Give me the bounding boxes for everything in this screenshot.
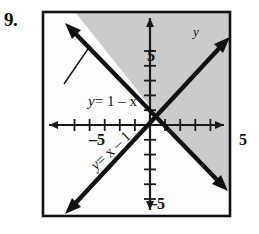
equation-1-variable: y	[88, 93, 95, 109]
coordinate-plane-svg	[41, 10, 232, 218]
coordinate-plane: 5 –5 5 –5 y x y= 1 – x y= x – 1	[41, 10, 232, 218]
equation-1-expression: = 1 – x	[95, 93, 137, 109]
y-axis-tick-label-minus-5: –5	[149, 196, 165, 212]
problem-number: 9.	[4, 10, 17, 29]
y-axis-label: y	[193, 25, 199, 38]
equation-label-y-equals-1-minus-x: y= 1 – x	[88, 94, 137, 109]
y-axis-tick-label-5: 5	[147, 48, 155, 64]
graph-figure: 9.	[0, 0, 259, 234]
x-axis-tick-label-5: 5	[239, 132, 247, 148]
